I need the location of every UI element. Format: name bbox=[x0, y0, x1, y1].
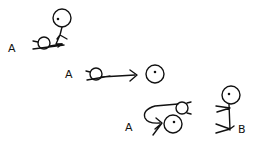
seated-figure-body bbox=[216, 104, 234, 133]
target-head bbox=[146, 65, 164, 83]
curled-figure-limbs bbox=[144, 102, 191, 123]
loop-arrow-head bbox=[153, 118, 162, 135]
panel-2-figures bbox=[86, 65, 164, 83]
panel-1-figures bbox=[33, 9, 71, 49]
other-head bbox=[164, 115, 182, 133]
eye-dot bbox=[57, 18, 58, 19]
panel-3-figures bbox=[144, 86, 240, 135]
label-b-panel-3: B bbox=[238, 124, 246, 135]
label-a-panel-1: A bbox=[8, 43, 16, 54]
label-a-panel-3: A bbox=[125, 122, 133, 133]
lying-figure-body bbox=[86, 71, 135, 80]
seated-figure-head bbox=[222, 86, 240, 104]
eye-dot bbox=[173, 121, 174, 122]
eye-dot bbox=[228, 93, 229, 94]
label-a-panel-2: A bbox=[65, 69, 73, 80]
standing-figure-head bbox=[53, 9, 71, 27]
eye-dot bbox=[154, 71, 155, 72]
